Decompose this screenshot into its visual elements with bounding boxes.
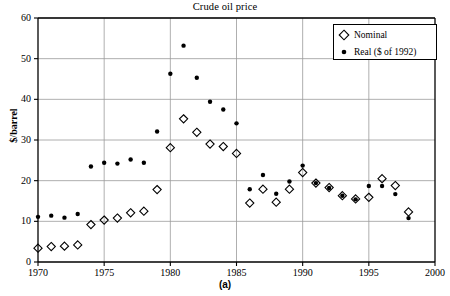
legend-entry-nominal: Nominal [334,26,438,43]
y-tick-label-40: 40 [1,93,31,104]
x-tick-label-1985: 1985 [215,267,259,278]
data-point-real-1979 [155,129,159,133]
data-point-real-1989 [287,179,291,183]
y-tick-label-20: 20 [1,175,31,186]
data-point-real-1980 [168,72,172,76]
y-tick-label-10: 10 [1,215,31,226]
data-point-nominal-1984 [219,142,227,150]
data-point-nominal-1971 [47,242,55,250]
data-point-real-1974 [89,164,93,168]
data-point-nominal-1983 [206,140,214,148]
data-point-real-1985 [234,121,238,125]
data-point-real-1981 [181,43,185,47]
filled-circle-icon [334,46,354,58]
data-point-real-1986 [248,187,252,191]
data-point-nominal-1996 [378,175,386,183]
data-point-real-1982 [195,76,199,80]
data-point-real-1971 [49,213,53,217]
series-real-points [36,43,411,220]
data-point-real-1993 [340,194,344,198]
data-point-nominal-1986 [246,199,254,207]
y-tick-label-30: 30 [1,134,31,145]
series-nominal-points [34,115,413,253]
data-point-nominal-1982 [193,128,201,136]
data-point-nominal-1977 [127,209,135,217]
data-point-real-1972 [62,215,66,219]
data-point-real-1970 [36,215,40,219]
data-point-real-1976 [115,161,119,165]
data-point-real-1984 [221,107,225,111]
data-point-real-1978 [142,161,146,165]
x-tick-label-1975: 1975 [82,267,126,278]
data-point-real-1996 [380,184,384,188]
panel-caption: (a) [0,279,450,290]
data-point-real-1977 [128,157,132,161]
chart-legend: Nominal Real ($ of 1992) [333,24,437,60]
data-point-nominal-1998 [404,208,412,216]
legend-entry-real: Real ($ of 1992) [334,43,438,60]
data-point-nominal-1972 [60,242,68,250]
x-tick-label-1970: 1970 [16,267,60,278]
legend-label-real: Real ($ of 1992) [354,47,417,57]
open-diamond-icon [334,29,354,41]
data-point-nominal-1979 [153,186,161,194]
data-point-real-1973 [76,212,80,216]
data-point-real-1990 [300,163,304,167]
legend-label-nominal: Nominal [354,30,387,40]
x-tick-label-2000: 2000 [413,267,450,278]
x-tick-label-1980: 1980 [148,267,192,278]
data-point-nominal-1987 [259,185,267,193]
data-point-real-1975 [102,161,106,165]
data-point-nominal-1988 [272,198,280,206]
data-point-real-1991 [314,181,318,185]
y-tick-label-50: 50 [1,53,31,64]
data-point-nominal-1978 [140,207,148,215]
figure-container: Crude oil price $/barrel 0102030405060 1… [0,0,450,296]
data-point-real-1988 [274,191,278,195]
data-point-real-1987 [261,173,265,177]
x-tick-label-1990: 1990 [281,267,325,278]
data-point-real-1983 [208,100,212,104]
data-point-real-1997 [393,192,397,196]
data-point-nominal-1973 [74,241,82,249]
y-tick-label-0: 0 [1,256,31,267]
data-point-nominal-1981 [179,115,187,123]
data-point-nominal-1989 [285,185,293,193]
x-tick-label-1995: 1995 [347,267,391,278]
data-point-nominal-1997 [391,181,399,189]
data-point-real-1995 [367,184,371,188]
y-tick-label-60: 60 [1,12,31,23]
